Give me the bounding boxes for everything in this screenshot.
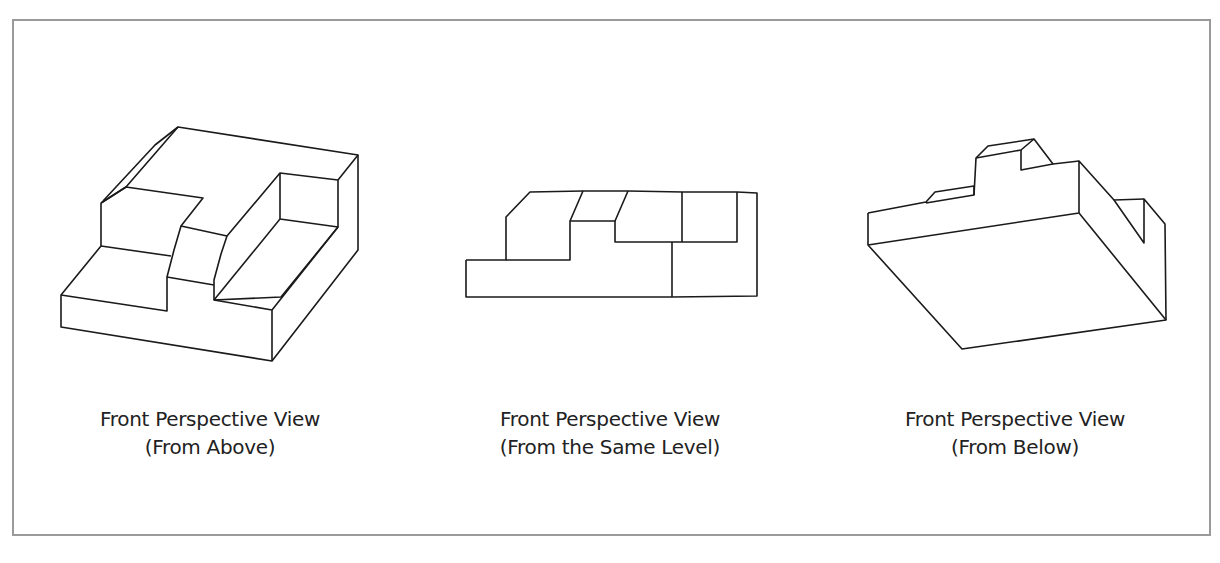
edge-line (272, 227, 338, 310)
label-from-above: Front Perspective View (From Above) (40, 405, 380, 461)
view-title: Front Perspective View (40, 405, 380, 433)
view-subtitle: (From Above) (40, 433, 380, 461)
drawing-from-below (868, 139, 1166, 349)
drawing-from-above (61, 127, 358, 361)
edge-line (974, 139, 1079, 195)
edge-line (61, 127, 358, 361)
edge-line (868, 161, 1166, 349)
edge-line (506, 191, 583, 260)
edge-line (214, 219, 280, 300)
view-subtitle: (From the Same Level) (440, 433, 780, 461)
edge-line (570, 191, 628, 221)
edge-line (167, 277, 214, 285)
label-from-below: Front Perspective View (From Below) (845, 405, 1185, 461)
perspective-drawings (0, 0, 1220, 563)
edge-line (868, 186, 974, 213)
label-same-level: Front Perspective View (From the Same Le… (440, 405, 780, 461)
edge-line (280, 173, 338, 227)
view-title: Front Perspective View (845, 405, 1185, 433)
edge-line (1021, 150, 1053, 170)
edge-line (615, 192, 737, 242)
edge-line (61, 187, 203, 311)
edge-line (101, 246, 171, 256)
edge-line (466, 191, 757, 297)
edge-line (214, 300, 272, 361)
edge-line (181, 173, 338, 300)
view-title: Front Perspective View (440, 405, 780, 433)
edge-line (1114, 199, 1144, 200)
view-subtitle: (From Below) (845, 433, 1185, 461)
edge-line (1079, 213, 1166, 320)
drawing-from-same-level (466, 191, 757, 297)
edge-line (103, 127, 178, 201)
edge-line (338, 155, 358, 180)
